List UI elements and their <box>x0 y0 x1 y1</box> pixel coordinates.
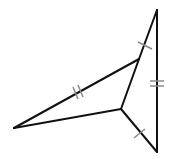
edge-center-bottom <box>121 109 157 152</box>
edge-top-upper <box>139 10 157 59</box>
geometry-diagram <box>0 0 175 159</box>
